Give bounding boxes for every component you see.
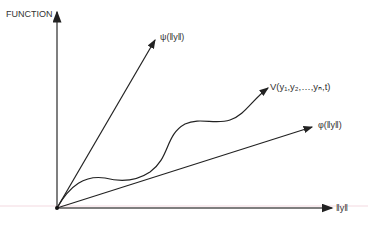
x-axis-label: ‖y‖ [336, 203, 348, 213]
psi-line [57, 40, 155, 208]
phi-label: φ(‖y‖) [318, 120, 342, 130]
origin-point [55, 206, 59, 210]
phi-line [57, 127, 312, 208]
V-curve [57, 88, 268, 208]
V-label: V(y₁,y₂,…,yₙ,t) [270, 81, 331, 92]
psi-label: ψ(‖y‖) [160, 32, 184, 42]
function-bounds-diagram: FUNCTION ψ(‖y‖) V(y₁,y₂,…,yₙ,t) φ(‖y‖) ‖… [0, 0, 368, 226]
y-axis-label: FUNCTION [6, 9, 53, 19]
